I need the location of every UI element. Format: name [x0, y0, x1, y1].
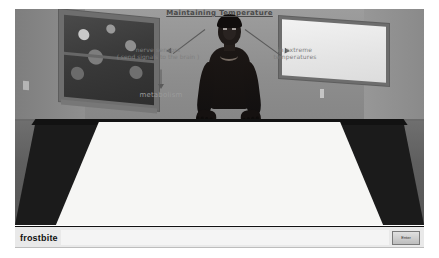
arrow-down: [156, 69, 166, 91]
enter-button[interactable]: Enter: [392, 231, 420, 245]
worksheet-branch-left: nerve sensors: [108, 46, 208, 53]
avatar-eye-left: [223, 28, 227, 30]
toolbar-divider: [15, 247, 424, 248]
whiteboard-tray: [23, 81, 29, 90]
game-viewport[interactable]: Maintaining Temperature nerve sensors ( …: [15, 9, 424, 225]
avatar-eye-right: [232, 28, 236, 30]
status-label: frostbite: [15, 233, 58, 243]
worksheet-branch-left-detail: ( send signals to the brain ): [108, 53, 208, 60]
worksheet-branch-right: in extreme temperatures: [247, 46, 343, 60]
application-window: Maintaining Temperature nerve sensors ( …: [0, 0, 439, 258]
worksheet-branch-bottom: metabolism: [118, 92, 204, 99]
bottom-toolbar: frostbite Enter: [15, 226, 424, 248]
wall-decal: [320, 89, 324, 98]
answer-input[interactable]: [61, 230, 389, 245]
avatar-necklace: [220, 51, 238, 61]
worksheet-title: Maintaining Temperature: [157, 10, 282, 17]
